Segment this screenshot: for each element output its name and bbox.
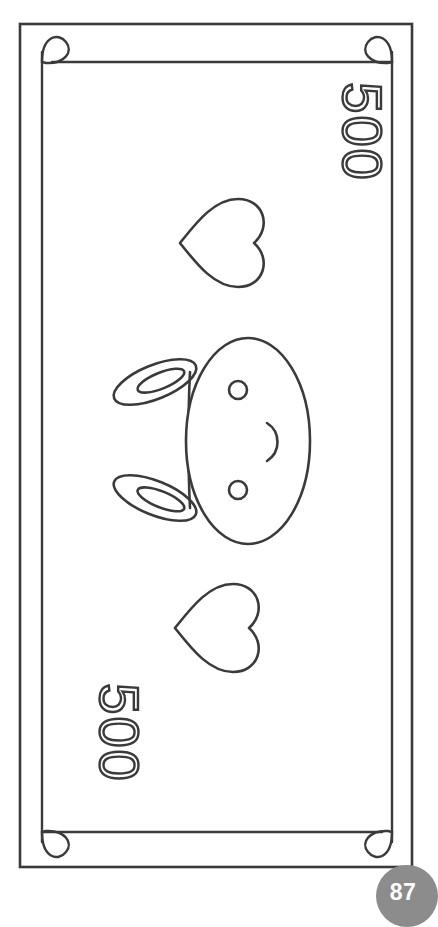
- denomination-top-right: 500: [331, 82, 394, 181]
- corner-bottom-left-icon: [42, 831, 69, 857]
- corner-bottom-right-icon: [365, 831, 392, 857]
- heart-upper-shape: [180, 199, 264, 287]
- head-oval: [186, 338, 310, 544]
- page-number-badge: 87: [376, 865, 438, 927]
- page-number-text: 87: [390, 881, 417, 904]
- denomination-bottom-left: 500: [88, 683, 151, 782]
- bunny-face: [108, 338, 310, 544]
- heart-lower-shape: [175, 584, 259, 672]
- heart-icon: [180, 199, 264, 287]
- denomination-label: 500: [331, 82, 394, 181]
- corner-top-right-icon: [365, 37, 392, 63]
- heart-icon: [175, 584, 259, 672]
- denomination-label: 500: [88, 683, 151, 782]
- corner-top-left-icon: [42, 37, 69, 63]
